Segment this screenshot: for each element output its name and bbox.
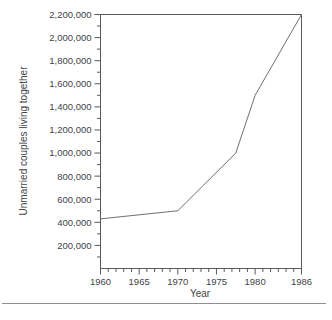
x-axis-title: Year [190, 288, 211, 299]
x-tick-label: 1975 [206, 276, 227, 287]
x-tick-label: 1986 [291, 276, 312, 287]
chart-figure: 200,000400,000600,000800,0001,000,0001,2… [0, 0, 332, 320]
x-axis-tick-labels: 196019651970197519801986 [90, 276, 312, 287]
y-tick-label: 2,200,000 [49, 9, 91, 20]
x-tick-label: 1960 [90, 276, 111, 287]
x-axis-minor-ticks [108, 269, 294, 273]
y-tick-label: 1,600,000 [49, 78, 91, 89]
footer-divider [2, 303, 326, 304]
x-tick-label: 1965 [129, 276, 150, 287]
y-tick-label: 1,200,000 [49, 124, 91, 135]
y-tick-label: 400,000 [57, 217, 91, 228]
y-tick-label: 600,000 [57, 194, 91, 205]
axis-frame [101, 15, 302, 269]
data-series-line [101, 15, 302, 219]
y-tick-label: 1,800,000 [49, 55, 91, 66]
y-tick-label: 200,000 [57, 240, 91, 251]
y-tick-label: 800,000 [57, 171, 91, 182]
y-axis-title: Unmarried couples living together [18, 66, 29, 216]
y-tick-label: 1,400,000 [49, 101, 91, 112]
y-tick-label: 1,000,000 [49, 147, 91, 158]
y-axis-tick-labels: 200,000400,000600,000800,0001,000,0001,2… [49, 9, 91, 251]
x-tick-label: 1980 [245, 276, 266, 287]
x-tick-label: 1970 [167, 276, 188, 287]
line-chart: 200,000400,000600,000800,0001,000,0001,2… [0, 0, 332, 320]
y-tick-label: 2,000,000 [49, 32, 91, 43]
